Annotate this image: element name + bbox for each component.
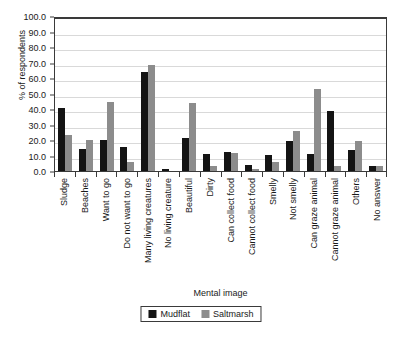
x-axis-label-cell: Want to go <box>96 178 117 283</box>
x-axis-tick-mark <box>96 172 117 177</box>
bar-mudflat <box>307 154 314 171</box>
bar-saltmarsh <box>334 166 341 171</box>
bar-group <box>117 19 138 171</box>
x-axis-category-label: Cannot collect food <box>247 178 257 255</box>
bar-chart-figure: % of respondents 100.090.080.070.060.050… <box>0 0 402 346</box>
y-axis-tick-label: 60.0 <box>28 74 46 84</box>
x-axis-label-cell: Can collect food <box>221 178 242 283</box>
bar-mudflat <box>286 141 293 171</box>
bar-group <box>262 19 283 171</box>
x-axis-category-label: Sludge <box>59 178 69 206</box>
x-axis-category-label: Beautiful <box>184 178 194 213</box>
x-axis-label-cell: Dirty <box>200 178 221 283</box>
x-axis-tick-mark <box>158 172 179 177</box>
y-axis-tick-label: 30.0 <box>28 121 46 131</box>
y-axis-tick-labels: 100.090.080.070.060.050.040.030.020.010.… <box>0 0 54 189</box>
x-axis-title: Mental image <box>54 288 387 298</box>
x-axis-label-cell: Not smelly <box>283 178 304 283</box>
legend-label: Mudflat <box>160 309 190 319</box>
x-axis-category-label: Smelly <box>268 178 278 205</box>
x-axis-label-cell: Sludge <box>54 178 75 283</box>
legend-swatch-icon <box>201 310 209 318</box>
bar-group <box>283 19 304 171</box>
x-axis-category-label: Cannot graze animal <box>330 178 340 261</box>
legend-item-mudflat: Mudflat <box>148 309 190 319</box>
plot-area <box>54 17 387 172</box>
bar-saltmarsh <box>65 135 72 171</box>
x-axis-label-cell: No living creature <box>158 178 179 283</box>
y-axis-tick-label: 20.0 <box>28 136 46 146</box>
bar-saltmarsh <box>355 141 362 171</box>
x-axis-category-label: Dirty <box>205 178 215 197</box>
x-axis-tick-mark <box>75 172 96 177</box>
bar-mudflat <box>182 138 189 171</box>
bar-mudflat <box>141 72 148 171</box>
bar-mudflat <box>162 169 169 171</box>
x-axis-tick-mark <box>241 172 262 177</box>
x-axis-label-cell: Smelly <box>262 178 283 283</box>
y-axis-tick-label: 90.0 <box>28 28 46 38</box>
legend-label: Saltmarsh <box>213 309 254 319</box>
bar-group <box>345 19 366 171</box>
bar-mudflat <box>265 155 272 171</box>
bar-mudflat <box>120 147 127 171</box>
x-axis-label-cell: Do not want to go <box>116 178 137 283</box>
y-axis-tick-label: 50.0 <box>28 90 46 100</box>
bar-saltmarsh <box>314 89 321 171</box>
x-axis-category-label: Not smelly <box>288 178 298 220</box>
y-axis-tick-label: 70.0 <box>28 59 46 69</box>
bar-group <box>179 19 200 171</box>
bar-group <box>200 19 221 171</box>
x-axis-tick-mark <box>366 172 387 177</box>
x-axis-label-cell: Beaches <box>75 178 96 283</box>
bar-saltmarsh <box>189 103 196 171</box>
bar-group <box>76 19 97 171</box>
bar-group <box>241 19 262 171</box>
y-axis-tick-label: 40.0 <box>28 105 46 115</box>
x-axis-tick-marks <box>54 172 387 177</box>
x-axis-label-cell: Many living creatures <box>137 178 158 283</box>
x-axis-category-label: Can graze animal <box>309 178 319 249</box>
y-axis-tick-label: 100.0 <box>23 12 46 22</box>
bar-saltmarsh <box>210 166 217 171</box>
x-axis-tick-mark <box>200 172 221 177</box>
bar-mudflat <box>327 111 334 171</box>
x-axis-label-cell: Cannot collect food <box>241 178 262 283</box>
bar-mudflat <box>348 150 355 171</box>
x-axis-category-label: Many living creatures <box>143 178 153 263</box>
bar-groups <box>55 19 386 171</box>
bar-mudflat <box>203 154 210 171</box>
x-axis-tick-mark <box>137 172 158 177</box>
bar-saltmarsh <box>376 166 383 171</box>
bar-saltmarsh <box>148 65 155 171</box>
bar-mudflat <box>79 149 86 171</box>
x-axis-tick-mark <box>179 172 200 177</box>
x-axis-category-label: Can collect food <box>226 178 236 243</box>
bar-mudflat <box>58 108 65 171</box>
x-axis-category-label: Do not want to go <box>122 178 132 249</box>
x-axis-tick-mark <box>54 172 75 177</box>
bar-group <box>365 19 386 171</box>
bar-group <box>221 19 242 171</box>
x-axis-label-cell: Others <box>345 178 366 283</box>
x-axis-tick-mark <box>116 172 137 177</box>
x-axis-category-label: No answer <box>372 178 382 221</box>
bar-saltmarsh <box>231 153 238 171</box>
bar-saltmarsh <box>272 162 279 171</box>
x-axis-tick-mark <box>304 172 325 177</box>
x-axis-category-label: Beaches <box>80 178 90 213</box>
bar-saltmarsh <box>127 162 134 171</box>
bar-mudflat <box>100 140 107 171</box>
bar-group <box>158 19 179 171</box>
bar-saltmarsh <box>86 140 93 171</box>
y-axis-tick-label: 10.0 <box>28 152 46 162</box>
x-axis-label-cell: Beautiful <box>179 178 200 283</box>
x-axis-category-labels: SludgeBeachesWant to goDo not want to go… <box>54 178 387 283</box>
bar-group <box>138 19 159 171</box>
y-axis-tick-label: 0.0 <box>33 167 46 177</box>
x-axis-category-label: Want to go <box>101 178 111 221</box>
x-axis-category-label: Others <box>351 178 361 205</box>
x-axis-label-cell: No answer <box>366 178 387 283</box>
x-axis-tick-mark <box>262 172 283 177</box>
legend-item-saltmarsh: Saltmarsh <box>201 309 254 319</box>
